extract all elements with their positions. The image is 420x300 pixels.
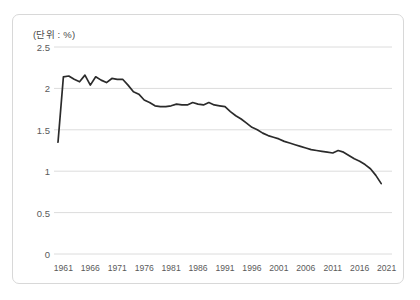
x-tick-label: 2016: [350, 263, 369, 273]
x-tick-label: 2001: [269, 263, 288, 273]
x-tick-label: 2006: [296, 263, 315, 273]
x-tick-label: 2021: [377, 263, 396, 273]
y-tick-label: 1.5: [20, 124, 50, 135]
chart-figure: (단위 : %) 00.511.522.5 196119661971197619…: [0, 0, 420, 300]
plot-area: [0, 0, 420, 300]
x-tick-label: 1986: [189, 263, 208, 273]
x-tick-label: 1981: [162, 263, 181, 273]
x-tick-label: 1996: [242, 263, 261, 273]
x-tick-label: 1991: [215, 263, 234, 273]
x-tick-label: 1971: [108, 263, 127, 273]
y-tick-label: 1: [20, 166, 50, 177]
y-tick-label: 2.5: [20, 42, 50, 53]
y-tick-label: 0.5: [20, 207, 50, 218]
x-tick-label: 2011: [323, 263, 341, 273]
y-tick-label: 2: [20, 83, 50, 94]
gridlines: [58, 47, 392, 254]
x-tick-label: 1976: [135, 263, 154, 273]
x-tick-label: 1961: [54, 263, 73, 273]
y-tick-label: 0: [20, 249, 50, 260]
y-tick-marks: [54, 47, 58, 254]
x-tick-label: 1966: [81, 263, 100, 273]
